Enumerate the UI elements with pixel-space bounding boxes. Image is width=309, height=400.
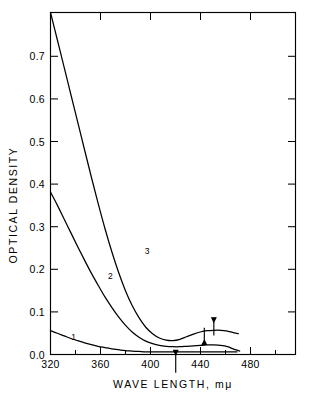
plot-frame bbox=[51, 13, 296, 355]
y-tick-label-0.2: 0.2 bbox=[30, 263, 46, 275]
y-tick-label-0.0: 0.0 bbox=[30, 349, 46, 361]
curve-label-3: 3 bbox=[145, 246, 150, 256]
y-axis-title: OPTICAL DENSITY bbox=[7, 147, 19, 264]
spectra-chart: 320 360 400 440 480 0.0 0.1 0.2 0.3 0.4 … bbox=[0, 0, 309, 400]
y-tick-label-0.7: 0.7 bbox=[30, 50, 46, 62]
figure-container: 320 360 400 440 480 0.0 0.1 0.2 0.3 0.4 … bbox=[0, 0, 309, 400]
x-tick-label-360: 360 bbox=[91, 358, 109, 370]
y-axis-right-ticks bbox=[288, 56, 296, 312]
y-tick-label-0.1: 0.1 bbox=[30, 306, 46, 318]
arrow-up-marker bbox=[212, 318, 216, 336]
x-axis-top-ticks bbox=[101, 13, 251, 21]
y-tick-label-0.4: 0.4 bbox=[30, 178, 46, 190]
x-axis-title: WAVE LENGTH, mμ bbox=[113, 378, 233, 390]
x-tick-label-440: 440 bbox=[191, 358, 209, 370]
y-tick-label-0.3: 0.3 bbox=[30, 221, 46, 233]
x-tick-label-480: 480 bbox=[241, 358, 259, 370]
x-tick-label-400: 400 bbox=[141, 358, 159, 370]
y-tick-label-0.6: 0.6 bbox=[30, 93, 46, 105]
arrow-down-marker bbox=[202, 328, 206, 345]
curve-1 bbox=[51, 331, 237, 352]
curve-label-2: 2 bbox=[108, 271, 113, 281]
y-tick-label-0.5: 0.5 bbox=[30, 136, 46, 148]
arrow-axis-marker bbox=[174, 350, 178, 372]
curve-3 bbox=[51, 13, 239, 341]
x-axis-major-ticks bbox=[51, 347, 251, 355]
curve-label-1: 1 bbox=[71, 332, 76, 342]
